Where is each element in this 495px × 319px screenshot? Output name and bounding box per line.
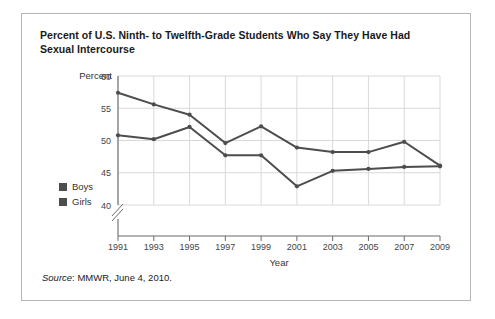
x-tick-labels: 1991199319951997199920012003200520072009 (108, 242, 450, 252)
y-tick-label: 45 (101, 168, 111, 178)
x-tick-label: 2003 (323, 242, 343, 252)
y-tick-labels: 4045505560 (101, 72, 111, 211)
x-tick-label: 1993 (144, 242, 164, 252)
gridlines (118, 76, 440, 205)
x-axis-label: Year (269, 257, 288, 268)
data-point (187, 125, 191, 129)
data-point (366, 167, 370, 171)
series-line-boys (118, 93, 440, 166)
y-tick-label: 55 (101, 104, 111, 114)
data-point (187, 113, 191, 117)
legend-swatch-boys (59, 183, 67, 191)
x-tick-label: 1995 (180, 242, 200, 252)
data-point (331, 169, 335, 173)
axis-break-icon (112, 204, 123, 221)
source-label: Source (42, 272, 72, 283)
chart-figure: 4045505560 19911993199519971999200120032… (22, 14, 472, 302)
data-point (402, 140, 406, 144)
x-tick-label: 1997 (215, 242, 235, 252)
x-tick-label: 1991 (108, 242, 128, 252)
data-point (116, 91, 120, 95)
data-point (116, 133, 120, 137)
y-axis-label: Percent (79, 70, 112, 81)
data-point (438, 164, 442, 168)
data-point (223, 153, 227, 157)
legend-label-girls: Girls (72, 196, 92, 207)
x-tick-label: 2001 (287, 242, 307, 252)
chart-legend: BoysGirls (59, 181, 93, 207)
x-tick-label: 2007 (394, 242, 414, 252)
data-point (152, 137, 156, 141)
y-tick-label: 40 (101, 201, 111, 211)
data-point (223, 141, 227, 145)
data-point (366, 150, 370, 154)
data-point (152, 102, 156, 106)
line-chart-svg: 4045505560 19911993199519971999200120032… (22, 14, 472, 302)
data-point (295, 184, 299, 188)
series-layer (116, 91, 442, 189)
legend-swatch-girls (59, 198, 67, 206)
x-tick-label: 2005 (358, 242, 378, 252)
data-point (331, 150, 335, 154)
source-note: Source: MMWR, June 4, 2010. (42, 272, 172, 283)
data-point (402, 165, 406, 169)
data-point (259, 153, 263, 157)
y-tick-label: 50 (101, 136, 111, 146)
x-tick-marks (118, 236, 440, 241)
legend-label-boys: Boys (72, 181, 93, 192)
source-value: : MMWR, June 4, 2010. (72, 272, 172, 283)
data-point (295, 145, 299, 149)
chart-card: Percent of U.S. Ninth- to Twelfth-Grade … (21, 13, 471, 301)
x-tick-label: 1999 (251, 242, 271, 252)
x-tick-label: 2009 (430, 242, 450, 252)
data-point (259, 124, 263, 128)
